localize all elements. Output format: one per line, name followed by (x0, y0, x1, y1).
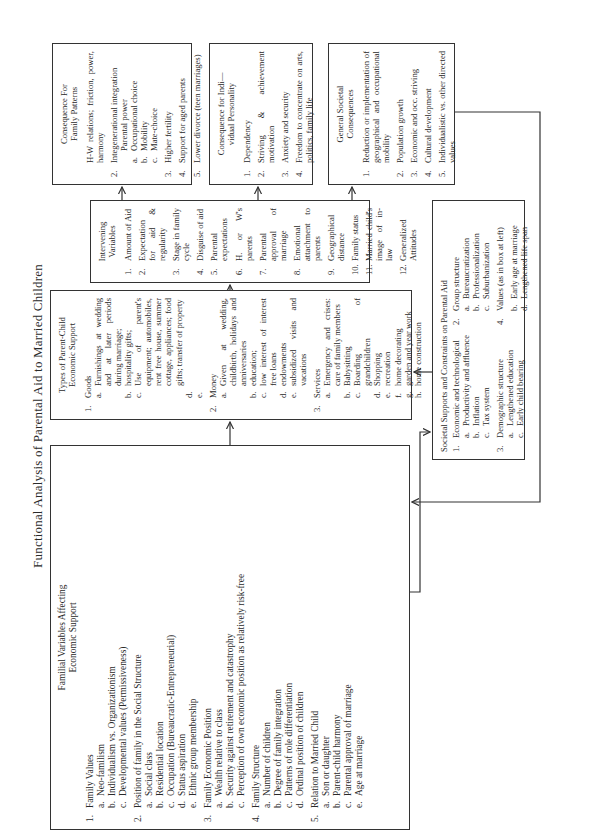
societal-supports-box: Societal Supports and Constraints on Par… (432, 200, 525, 460)
sub-item-letter: b. (332, 796, 343, 808)
sub-item-letter: d. (519, 299, 529, 311)
sub-item-label: education; (248, 298, 258, 386)
list-item: 11.Married child's image of in-law (364, 208, 394, 275)
sub-item-label: Bureaucratization (461, 208, 471, 299)
item-label: Values (as in box at left) (495, 208, 505, 311)
sub-item: b.Degree of family integration (273, 453, 284, 822)
sub-item: c.Boarding of grandchildren (352, 298, 372, 412)
list-item: 5.Parental expectations (209, 208, 229, 275)
sub-item-letter: a. (461, 299, 471, 311)
sub-item-label: Individualism vs. Organizationism (107, 453, 118, 796)
sub-item-letter: a. (322, 386, 342, 398)
sub-item-label: Neo-familism (96, 453, 107, 796)
item-number: 1. (361, 163, 391, 177)
item-label: Money (208, 298, 218, 398)
types-list: 1.Goodsa.Furnishings at wedding and at l… (83, 298, 427, 412)
item-number: 4. (495, 311, 505, 325)
list-item: 4.Disguise of aid (195, 208, 205, 275)
item-label: Family Values (85, 453, 96, 808)
sub-item-label: subsidized visits and vacations (288, 298, 308, 386)
item-number: 2. (395, 163, 405, 177)
item-number: 4. (294, 163, 314, 177)
item-label: Emotional attachment to parents (292, 208, 322, 261)
sub-item-letter: d. (295, 796, 306, 808)
sub-item: b.Individualism vs. Organizationism (107, 453, 118, 822)
sub-item: c.low interest of interest free loans (258, 298, 278, 412)
item-label: Generalized Attitudes (398, 208, 418, 261)
item-number: 7. (258, 261, 288, 275)
sub-item-label: Babysitting (342, 298, 352, 386)
sub-item-label: low interest of interest free loans (258, 298, 278, 386)
item-label: Integenerational integration (109, 51, 119, 163)
sub-item-label: Ethnic group membership (188, 453, 199, 796)
sub-item: e.Ethnic group membership (188, 453, 199, 822)
sub-item: b.Professionalization (471, 208, 481, 325)
sub-item-label: Early age at marriage (509, 208, 519, 299)
sub-item-label: Status aspiration (177, 453, 188, 796)
sub-item-label: Tax system (481, 335, 491, 426)
sub-item-label: Early child bearing (515, 335, 525, 426)
item-label: Family Economic Position (203, 453, 214, 808)
sub-item: b.Inflation (471, 335, 481, 452)
familial-heading: Familial Variables Affecting Economic Su… (57, 453, 79, 822)
item-number: 3. (495, 438, 505, 452)
list-item: 1.Family Values (85, 453, 96, 822)
item-number: 11. (364, 261, 394, 275)
list-item: 1.Economic and technological (451, 335, 461, 452)
sub-item-label: Lengthened education (505, 335, 515, 426)
sub-item-letter: a. (93, 386, 123, 398)
sub-item-label: recreation (382, 298, 392, 386)
item-label: Dependency (242, 51, 252, 163)
item-number: 3. (163, 163, 173, 177)
sub-item-letter: b. (139, 151, 149, 163)
item-label: Family status (350, 208, 360, 261)
sub-item: b.education; (248, 298, 258, 412)
list-item: 10.Family status (350, 208, 360, 275)
item-label: Economic and technological (451, 335, 461, 438)
sub-item-label: Security against retirement and catastro… (225, 453, 236, 796)
sub-item-label: Suburbanization (481, 208, 491, 299)
item-number: 2. (451, 311, 461, 325)
sub-item-label: Mate-choice (149, 51, 159, 151)
item-label: Married child's image of in-law (364, 208, 394, 261)
sub-item-letter: b. (248, 386, 258, 398)
sub-item: a.Lengthened education (505, 335, 515, 452)
sub-item-label: Developmental values (Permissiveness) (118, 453, 129, 796)
sub-item-letter: c. (258, 386, 278, 398)
sub-item: a.Neo-familism (96, 453, 107, 822)
intervening-heading: Intervening Variables (97, 208, 117, 275)
item-number: 10. (350, 261, 360, 275)
sub-item: d.Shopping (372, 298, 382, 412)
sub-item-letter: b. (225, 796, 236, 808)
sub-item: b.hospitality gifts; (123, 298, 133, 412)
supports-right-column: 2.Group structurea.Bureaucratizationb.Pr… (451, 208, 533, 325)
item-label: Striving & achievement motivation (256, 51, 276, 163)
sub-item: a.Number of children (262, 453, 273, 822)
list-item: 3.Anxiety and security (280, 51, 290, 177)
societal-supports-heading: Societal Supports and Constraints on Par… (439, 208, 449, 452)
sub-item: d.Lengthened life span (519, 208, 529, 325)
sub-item-letter: a. (144, 796, 155, 808)
family-patterns-list: H-W relations; friction, power, harmony2… (85, 51, 205, 177)
sub-item: e.subsidized visits and vacations (288, 298, 308, 412)
item-number: 3. (203, 808, 214, 822)
sub-item: a.Furnishings at wedding and at later pe… (93, 298, 123, 412)
sub-item-label: Professionalization (471, 208, 481, 299)
sub-item-letter: a. (321, 796, 332, 808)
sub-item-letter: c. (118, 796, 129, 808)
sub-item: a.Bureaucratization (461, 208, 471, 325)
sub-item-letter: c. (236, 796, 247, 808)
sub-item-letter: c. (284, 796, 295, 808)
sub-item-label: Occupation (Bureaucratic-Entrepreneurial… (166, 453, 177, 796)
item-number: 9. (326, 261, 346, 275)
sub-item: c.Occupation (Bureaucratic-Entrepreneuri… (166, 453, 177, 822)
sub-item-letter: c. (481, 299, 491, 311)
item-label: Group structure (451, 208, 461, 311)
item-label: Stage in family cycle (171, 208, 191, 261)
item-label: Demographic structure (495, 335, 505, 438)
sub-item-letter: b. (155, 796, 166, 808)
list-item: 7.Parental approval of marriage (258, 208, 288, 275)
sub-item: b.Babysitting (342, 298, 352, 412)
sub-item-letter: g. (403, 386, 413, 398)
sub-item-letter: a. (262, 796, 273, 808)
